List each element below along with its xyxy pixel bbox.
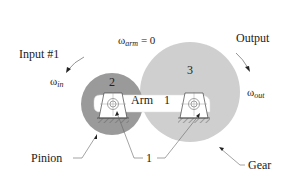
- pinion-leader: [73, 136, 96, 158]
- pinion-number-label: 2: [109, 75, 115, 89]
- arm-number-label: 1: [164, 93, 170, 107]
- omega-out-label: ωout: [247, 86, 265, 100]
- ground-number-label: 1: [146, 151, 152, 165]
- output-rotation-arrow: [236, 53, 248, 68]
- gear-3: [140, 42, 240, 142]
- gear-label: Gear: [248, 158, 271, 172]
- output-label: Output: [236, 31, 270, 45]
- gear-train-diagram: Input #1 Output ωin ωarm = 0 ωout 2 3 Ar…: [0, 0, 292, 184]
- output-arrowhead-icon: [245, 66, 250, 72]
- input-arrowhead-icon: [66, 67, 71, 73]
- gear-number-label: 3: [187, 63, 193, 77]
- gear-leader: [220, 148, 245, 165]
- arm-label: Arm: [131, 93, 154, 107]
- omega-in-label: ωin: [50, 75, 63, 89]
- pinion-label: Pinion: [31, 151, 62, 165]
- omega-arm-label: ωarm = 0: [118, 34, 156, 48]
- input-rotation-arrow: [68, 57, 84, 70]
- input-label: Input #1: [19, 47, 59, 61]
